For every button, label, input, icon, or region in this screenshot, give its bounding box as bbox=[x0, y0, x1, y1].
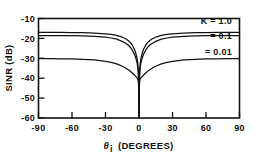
x-tick-label: 90 bbox=[234, 123, 245, 133]
y-axis-title: SINR (dB) bbox=[3, 44, 14, 91]
x-tick-label: 60 bbox=[201, 123, 212, 133]
x-axis-title-theta: θ bbox=[103, 140, 109, 151]
series-label-k-1p0: K = 1.0 bbox=[201, 16, 232, 26]
y-tick-label: -30 bbox=[21, 54, 35, 64]
x-tick-label: -60 bbox=[65, 123, 79, 133]
y-tick-label: -40 bbox=[21, 73, 35, 83]
y-tick-label: -60 bbox=[21, 113, 35, 123]
x-tick-label: 0 bbox=[136, 123, 141, 133]
y-tick-label: -50 bbox=[21, 93, 35, 103]
x-tick-label: -90 bbox=[32, 123, 46, 133]
x-axis-title-units: (DEGREES) bbox=[118, 140, 173, 151]
sinr-vs-angle-line-chart: -10 -20 -30 -40 -50 -60 -90 -60 -30 0 30… bbox=[0, 0, 257, 159]
x-tick-label: -30 bbox=[99, 123, 113, 133]
y-tick-label: -20 bbox=[21, 34, 35, 44]
x-axis-title-subscript: i bbox=[110, 144, 113, 154]
chart-figure: -10 -20 -30 -40 -50 -60 -90 -60 -30 0 30… bbox=[0, 0, 257, 159]
series-label-k-0p1: = 0.1 bbox=[210, 31, 232, 41]
y-tick-label: -10 bbox=[21, 14, 35, 24]
series-label-k-0p01: = 0.01 bbox=[205, 47, 232, 57]
x-tick-label: 30 bbox=[167, 123, 178, 133]
